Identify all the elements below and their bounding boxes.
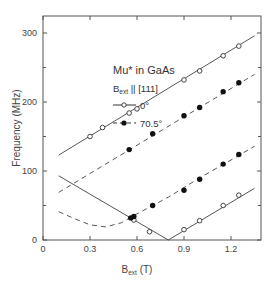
open-circle-point bbox=[100, 125, 105, 130]
filled-circle-point bbox=[181, 113, 186, 118]
filled-circle-point bbox=[126, 147, 131, 152]
filled-circle-point bbox=[150, 203, 155, 208]
fit-curve bbox=[59, 146, 255, 227]
y-tick-label: 200 bbox=[22, 97, 37, 107]
filled-circle-point bbox=[181, 188, 186, 193]
open-circle-point bbox=[221, 53, 226, 58]
y-tick-label: 0 bbox=[32, 235, 37, 245]
x-tick-label: 0.9 bbox=[178, 244, 191, 254]
y-tick-label: 100 bbox=[22, 166, 37, 176]
open-circle-point bbox=[127, 111, 132, 116]
field-direction-label: Bext || [111] bbox=[113, 83, 158, 95]
filled-circle-point bbox=[236, 152, 241, 157]
x-tick-label: 0.3 bbox=[84, 244, 97, 254]
legend: Mu* in GaAs Bext || [111] 0° 70.5° bbox=[113, 64, 175, 129]
chart: 00.30.60.91.20100200300 Mu* in GaAs Bext… bbox=[0, 0, 272, 283]
axis-ticks: 00.30.60.91.20100200300 bbox=[22, 16, 261, 254]
x-tick-label: 0 bbox=[40, 244, 45, 254]
legend-open-circle-icon bbox=[122, 103, 126, 107]
legend-label-0deg: 0° bbox=[140, 100, 149, 111]
open-circle-point bbox=[237, 44, 242, 49]
filled-circle-point bbox=[236, 80, 241, 85]
fit-curve bbox=[59, 176, 255, 240]
open-circle-point bbox=[182, 227, 187, 232]
filled-circle-point bbox=[220, 89, 225, 94]
filled-circle-point bbox=[150, 131, 155, 136]
open-circle-point bbox=[182, 78, 187, 83]
open-circle-point bbox=[237, 193, 242, 198]
y-tick-label: 300 bbox=[22, 28, 37, 38]
open-circle-point bbox=[197, 218, 202, 223]
filled-circle-point bbox=[131, 214, 136, 219]
y-axis-title: Frequency (MHz) bbox=[11, 89, 22, 166]
legend-filled-circle-icon bbox=[121, 120, 126, 125]
filled-circle-point bbox=[197, 105, 202, 110]
x-tick-label: 0.6 bbox=[131, 244, 144, 254]
x-axis-title: Bext (T) bbox=[122, 264, 153, 276]
legend-label-70deg: 70.5° bbox=[140, 118, 162, 129]
filled-circle-point bbox=[220, 161, 225, 166]
chart-title: Mu* in GaAs bbox=[113, 64, 175, 76]
x-tick-label: 1.2 bbox=[225, 244, 238, 254]
open-circle-point bbox=[221, 203, 226, 208]
open-circle-point bbox=[88, 134, 93, 139]
filled-circle-point bbox=[197, 177, 202, 182]
open-circle-point bbox=[147, 229, 152, 234]
open-circle-point bbox=[197, 69, 202, 74]
open-circle-point bbox=[135, 107, 140, 112]
